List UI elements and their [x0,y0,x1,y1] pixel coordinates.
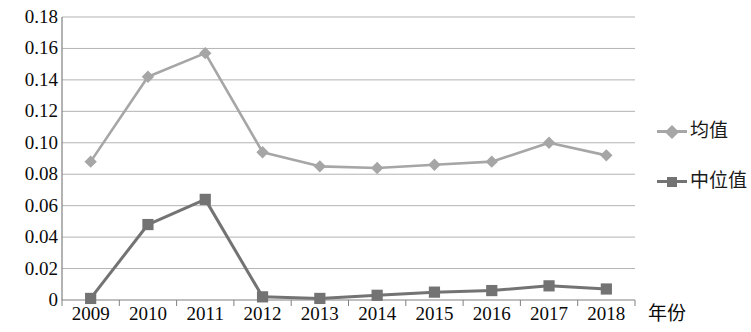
x-axis-title: 年份 [648,303,686,325]
data-point [543,280,554,291]
legend-swatch-median [657,173,687,189]
diamond-marker-icon [665,125,679,139]
data-point [429,287,440,298]
legend-label-mean: 均值 [690,121,728,141]
data-point [601,283,612,294]
data-point [371,162,383,174]
data-point [314,160,326,172]
data-point [486,285,497,296]
y-axis-tick-label: 0 [2,290,58,309]
x-axis-tick-label: 2018 [571,303,641,325]
y-axis-tick-label: 0.06 [2,196,58,215]
plot-area [62,17,635,300]
y-axis-tick-label: 0.18 [2,7,58,26]
square-marker-icon [667,177,677,187]
legend-swatch-mean [657,123,687,139]
data-point [142,219,153,230]
data-point [257,291,268,302]
y-axis-tick-label: 0.08 [2,164,58,183]
y-axis-tick-label: 0.10 [2,133,58,152]
line-chart: 00.020.040.060.080.100.120.140.160.18 20… [0,0,751,332]
data-point [372,290,383,301]
series-line-0 [91,53,607,168]
plot-svg [62,17,635,300]
chart-legend: 均值 中位值 [657,118,751,218]
data-point [600,149,612,161]
data-point [543,137,555,149]
y-axis-tick-label: 0.12 [2,101,58,120]
y-axis-tick-labels: 00.020.040.060.080.100.120.140.160.18 [0,0,58,332]
legend-label-median: 中位值 [690,171,747,191]
data-point [486,155,498,167]
y-axis-tick-label: 0.16 [2,38,58,57]
data-point [200,194,211,205]
legend-item-median: 中位值 [657,168,751,194]
x-axis-tick-labels: 2009201020112012201320142015201620172018 [62,303,635,331]
series-line-1 [91,199,607,298]
y-axis-tick-label: 0.04 [2,227,58,246]
data-point [428,159,440,171]
legend-item-mean: 均值 [657,118,751,144]
y-axis-tick-label: 0.02 [2,259,58,278]
y-axis-tick-label: 0.14 [2,70,58,89]
data-point [256,146,268,158]
